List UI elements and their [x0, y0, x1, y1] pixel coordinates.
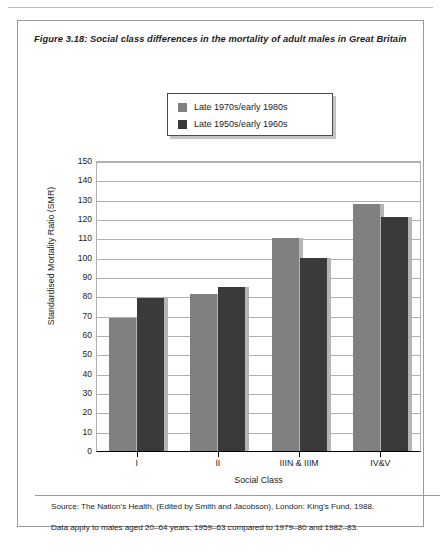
legend-item-late-1970s-early-1980s: Late 1970s/early 1980s — [178, 99, 332, 115]
x-tick-mark — [218, 452, 219, 457]
x-tick-mark — [380, 452, 381, 457]
bar — [381, 217, 408, 451]
x-tick-label: II — [215, 458, 220, 468]
x-tick-mark — [299, 452, 300, 457]
legend-label-light: Late 1970s/early 1980s — [194, 102, 288, 112]
y-tick-label: 140 — [66, 175, 92, 185]
y-tick-label: 110 — [66, 233, 92, 243]
bar-group — [96, 161, 177, 451]
bar-group — [177, 161, 258, 451]
bar — [218, 287, 245, 451]
figure-frame: Figure 3.18:Social class differences in … — [17, 20, 424, 527]
y-tick-label: 80 — [66, 291, 92, 301]
bar-group — [259, 161, 340, 451]
y-tick-label: 10 — [66, 427, 92, 437]
x-tick-label: I — [135, 458, 137, 468]
y-tick-label: 120 — [66, 214, 92, 224]
bar — [353, 204, 380, 451]
y-tick-label: 90 — [66, 272, 92, 282]
y-tick-label: 60 — [66, 330, 92, 340]
y-tick-label: 50 — [66, 349, 92, 359]
figure-page: Figure 3.18:Social class differences in … — [0, 0, 441, 551]
figure-number: Figure 3.18: — [34, 34, 90, 44]
y-tick-label: 40 — [66, 369, 92, 379]
bar — [272, 238, 299, 451]
page-top-rule — [8, 7, 433, 8]
bar-group — [340, 161, 421, 451]
x-tick-label: IV&V — [370, 458, 390, 468]
y-tick-label: 20 — [66, 407, 92, 417]
y-tick-label: 100 — [66, 253, 92, 263]
legend-swatch-dark — [178, 120, 187, 129]
y-tick-label: 130 — [66, 195, 92, 205]
y-axis-title: Standardised Mortality Ratio (SMR) — [46, 151, 56, 361]
bar-series-layer — [96, 161, 421, 451]
figure-title-text: Social class differences in the mortalit… — [90, 34, 407, 44]
x-axis-title: Social Class — [96, 475, 421, 485]
bar — [137, 298, 164, 451]
bar — [190, 294, 217, 451]
source-note: Source: The Nation's Health, (Edited by … — [51, 502, 374, 511]
data-note: Data apply to males aged 20–64 years, 19… — [51, 523, 358, 532]
chart-legend: Late 1970s/early 1980s Late 1950s/early … — [167, 93, 333, 136]
legend-item-late-1950s-early-1960s: Late 1950s/early 1960s — [178, 116, 332, 132]
bar — [300, 258, 327, 451]
x-tick-label: IIIN & IIIM — [280, 458, 319, 468]
legend-swatch-light — [178, 103, 187, 112]
y-axis-ticks: 0102030405060708090100110120130140150 — [62, 161, 92, 452]
y-tick-label: 0 — [66, 446, 92, 456]
y-tick-label: 30 — [66, 388, 92, 398]
footer-divider — [35, 495, 440, 496]
bar — [109, 318, 136, 451]
y-tick-label: 70 — [66, 311, 92, 321]
y-tick-label: 150 — [66, 156, 92, 166]
x-tick-mark — [137, 452, 138, 457]
legend-label-dark: Late 1950s/early 1960s — [194, 119, 288, 129]
figure-caption: Figure 3.18:Social class differences in … — [34, 34, 414, 44]
